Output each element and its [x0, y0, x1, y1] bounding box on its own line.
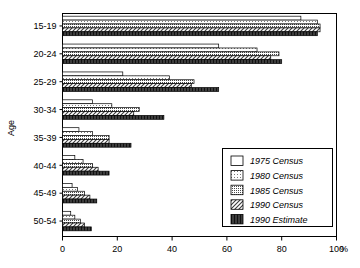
y-axis-title: Age [6, 120, 16, 136]
bar-35-39-1990-census [63, 139, 110, 143]
legend-swatch-1990-census [231, 200, 243, 210]
legend-label-1975-census: 1975 Census [250, 156, 304, 166]
bar-35-39-1980-census [63, 132, 93, 136]
bar-15-19-1985-census [63, 24, 321, 28]
bar-50-54-1990-estimate [63, 227, 92, 231]
bar-50-54-1975-census [63, 211, 71, 215]
x-tick-label-0: 0 [60, 244, 65, 254]
bar-15-19-1980-census [63, 20, 318, 24]
x-axis-unit: % [340, 244, 348, 254]
x-tick-label-20: 20 [112, 244, 122, 254]
bar-40-44-1980-census [63, 159, 84, 163]
legend-swatch-1990-estimate [231, 214, 243, 224]
bar-50-54-1990-census [63, 223, 85, 227]
bar-40-44-1985-census [63, 163, 93, 167]
bar-45-49-1975-census [63, 183, 73, 187]
legend-swatch-1985-census [231, 185, 243, 195]
y-tick-label-20-24: 20-24 [33, 49, 56, 59]
legend-label-1985-census: 1985 Census [250, 186, 304, 196]
bar-40-44-1975-census [63, 156, 75, 160]
chart-legend: 1975 Census1980 Census1985 Census1990 Ce… [223, 149, 333, 227]
bar-35-39-1990-estimate [63, 143, 132, 147]
y-tick-label-50-54: 50-54 [33, 216, 56, 226]
legend-label-1990-census: 1990 Census [250, 200, 304, 210]
legend-swatch-1980-census [231, 171, 243, 181]
bar-30-34-1980-census [63, 104, 112, 108]
y-tick-label-25-29: 25-29 [33, 77, 56, 87]
legend-swatch-1975-census [231, 156, 243, 166]
bar-20-24-1990-estimate [63, 60, 282, 64]
bar-45-49-1980-census [63, 187, 78, 191]
bar-25-29-1990-census [63, 84, 192, 88]
bar-45-49-1985-census [63, 191, 85, 195]
bar-40-44-1990-estimate [63, 171, 110, 175]
bar-25-29-1985-census [63, 80, 195, 84]
bar-45-49-1990-estimate [63, 199, 97, 203]
bar-25-29-1975-census [63, 72, 123, 76]
bar-50-54-1985-census [63, 219, 81, 223]
bar-20-24-1975-census [63, 44, 219, 48]
bar-15-19-1990-estimate [63, 32, 318, 36]
bar-15-19-1990-census [63, 28, 321, 32]
chart-svg-canvas: 020406080100 15-1920-2425-2930-3435-3940… [0, 0, 360, 268]
y-tick-label-30-34: 30-34 [33, 105, 56, 115]
bar-35-39-1985-census [63, 135, 110, 139]
y-tick-label-40-44: 40-44 [33, 161, 56, 171]
y-tick-label-45-49: 45-49 [33, 188, 56, 198]
y-tick-label-15-19: 15-19 [33, 21, 56, 31]
x-tick-label-60: 60 [222, 244, 232, 254]
x-tick-label-80: 80 [277, 244, 287, 254]
bar-45-49-1990-census [63, 195, 90, 199]
age-distribution-bar-chart: 020406080100 15-1920-2425-2930-3435-3940… [0, 0, 360, 268]
bar-35-39-1975-census [63, 128, 79, 132]
bar-30-34-1990-census [63, 112, 134, 116]
bar-50-54-1980-census [63, 215, 75, 219]
bar-20-24-1985-census [63, 52, 279, 56]
y-tick-label-35-39: 35-39 [33, 133, 56, 143]
bar-20-24-1990-census [63, 56, 271, 60]
bar-20-24-1980-census [63, 48, 258, 52]
bar-40-44-1990-census [63, 167, 99, 171]
bar-30-34-1975-census [63, 100, 93, 104]
x-axis: 020406080100 [60, 237, 344, 254]
y-axis: 15-1920-2425-2930-3435-3940-4445-4950-54 [33, 21, 62, 226]
bar-30-34-1985-census [63, 108, 140, 112]
bar-30-34-1990-estimate [63, 115, 164, 119]
legend-label-1980-census: 1980 Census [250, 171, 304, 181]
bar-25-29-1980-census [63, 76, 170, 80]
bar-15-19-1975-census [63, 16, 301, 20]
bar-25-29-1990-estimate [63, 88, 219, 92]
legend-label-1990-estimate: 1990 Estimate [250, 215, 308, 225]
x-tick-label-40: 40 [167, 244, 177, 254]
